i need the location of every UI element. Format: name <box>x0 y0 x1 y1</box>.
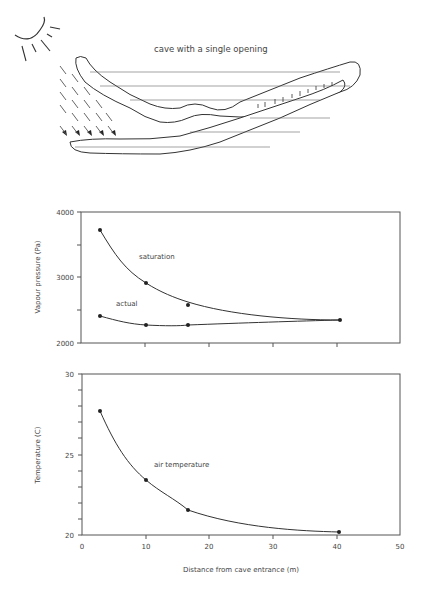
illustration-caption: cave with a single opening <box>154 44 268 54</box>
y-tick-3000: 3000 <box>56 274 74 282</box>
air-temperature-label: air temperature <box>154 461 209 469</box>
sun-rays-icon <box>22 27 60 61</box>
x-tick-0: 0 <box>80 543 84 551</box>
sun-icon <box>15 17 45 39</box>
saturation-label: saturation <box>139 253 175 261</box>
temperature-chart: 30 25 20 0 10 20 30 40 50 Temperature (C… <box>34 371 404 574</box>
vapour-pressure-chart: 4000 3000 2000 Vapour pressure (Pa) satu… <box>34 209 400 348</box>
y-axis-label: Vapour pressure (Pa) <box>34 240 42 313</box>
y-tick-30: 30 <box>65 371 74 379</box>
y-tick-20: 20 <box>65 532 74 540</box>
cave-rock-icon <box>70 57 360 155</box>
x-tick-30: 30 <box>269 543 278 551</box>
x-tick-40: 40 <box>333 543 342 551</box>
y-tick-2000: 2000 <box>56 340 74 348</box>
x-axis-label: Distance from cave entrance (m) <box>183 566 299 574</box>
x-tick-50: 50 <box>396 543 405 551</box>
y-tick-4000: 4000 <box>56 209 74 217</box>
y-tick-25: 25 <box>65 452 74 460</box>
figure: cave with a single opening <box>0 0 427 592</box>
x-tick-10: 10 <box>142 543 151 551</box>
actual-label: actual <box>116 300 138 308</box>
y-axis-label: Temperature (C) <box>34 426 42 484</box>
x-tick-20: 20 <box>205 543 214 551</box>
